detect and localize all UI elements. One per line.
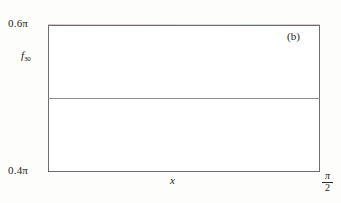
y-axis-min-tick-label: 0.4π <box>8 164 28 176</box>
panel-label: (b) <box>287 30 300 42</box>
figure-panel: 0.6π 0.4π f30 (b) x π 2 <box>0 0 341 203</box>
y-axis-max-tick-label: 0.6π <box>8 17 28 29</box>
x-axis-title: x <box>170 174 175 186</box>
y-axis-title: f30 <box>21 49 31 63</box>
x-axis-max-tick-label: π 2 <box>322 171 333 193</box>
plot-canvas <box>48 25 320 172</box>
x-max-numerator: π <box>322 171 333 181</box>
y-axis-title-subscript: 30 <box>24 55 31 63</box>
x-max-denominator: 2 <box>322 183 333 193</box>
